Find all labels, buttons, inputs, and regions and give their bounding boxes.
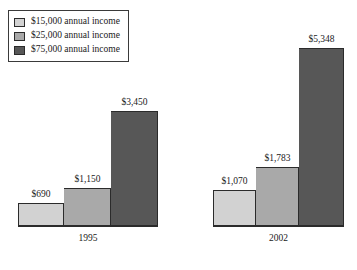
color-swatch-icon	[14, 46, 25, 55]
bar-item: $3,450	[111, 98, 158, 226]
legend-item-label: $25,000 annual income	[31, 31, 120, 41]
bar-rect	[64, 188, 111, 226]
bar-item: $1,783	[256, 154, 299, 226]
bar-rect	[299, 48, 344, 226]
chart-legend: $15,000 annual income $25,000 annual inc…	[8, 10, 129, 62]
bar-value-label: $1,070	[221, 177, 247, 187]
bar-value-label: $1,783	[264, 154, 290, 164]
bar-rect	[213, 190, 256, 226]
bar-group-1995: $690 $1,150 $3,450 1995	[18, 98, 158, 243]
grouped-bar-chart: $15,000 annual income $25,000 annual inc…	[0, 0, 357, 270]
legend-item: $25,000 annual income	[14, 29, 120, 43]
bar-rect	[18, 203, 64, 226]
bar-group-2002: $1,070 $1,783 $5,348 2002	[213, 35, 344, 243]
legend-item: $15,000 annual income	[14, 15, 120, 29]
bar-value-label: $5,348	[308, 35, 334, 45]
group-category-label: 1995	[18, 234, 158, 244]
bar-group-bars: $1,070 $1,783 $5,348	[213, 35, 344, 226]
legend-item-label: $15,000 annual income	[31, 17, 120, 27]
bar-item: $690	[18, 190, 64, 226]
bar-item: $5,348	[299, 35, 344, 226]
bar-value-label: $3,450	[121, 98, 147, 108]
legend-item: $75,000 annual income	[14, 43, 120, 57]
bar-item: $1,150	[64, 175, 111, 226]
legend-item-label: $75,000 annual income	[31, 45, 120, 55]
bar-value-label: $1,150	[74, 175, 100, 185]
bar-rect	[256, 167, 299, 226]
bar-item: $1,070	[213, 177, 256, 226]
bar-rect	[111, 111, 158, 226]
group-category-label: 2002	[213, 234, 344, 244]
color-swatch-icon	[14, 32, 25, 41]
bar-group-bars: $690 $1,150 $3,450	[18, 98, 158, 226]
color-swatch-icon	[14, 18, 25, 27]
bar-value-label: $690	[32, 190, 51, 200]
